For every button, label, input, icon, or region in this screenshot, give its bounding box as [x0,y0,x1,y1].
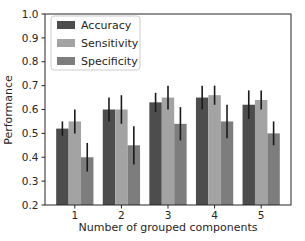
x-tick-label: 2 [118,209,125,221]
legend-swatch-sensitivity [57,39,75,47]
y-tick-label: 0.5 [22,127,39,139]
x-tick-label: 4 [211,209,218,221]
plot-area: 0.20.30.40.50.60.70.80.91.012345Accuracy… [22,8,291,221]
legend-label-accuracy: Accuracy [81,19,132,32]
x-tick-label: 1 [71,209,78,221]
bar-sensitivity-3 [162,98,174,205]
bar-chart-figure: 0.20.30.40.50.60.70.80.91.012345Accuracy… [0,0,305,241]
chart-canvas: 0.20.30.40.50.60.70.80.91.012345Accuracy… [0,0,305,241]
bar-sensitivity-1 [69,121,81,205]
bar-accuracy-5 [243,105,255,205]
y-tick-label: 0.4 [22,151,39,163]
y-axis-label: Performance [2,75,15,145]
bar-accuracy-4 [196,98,208,205]
bar-accuracy-1 [56,129,68,205]
legend-label-specificity: Specificity [81,55,138,68]
y-tick-label: 0.3 [22,175,39,187]
y-tick-label: 0.9 [22,32,39,44]
y-tick-label: 0.2 [22,199,39,211]
legend-swatch-specificity [57,57,75,65]
y-tick-label: 0.8 [22,55,39,67]
x-tick-label: 5 [258,209,265,221]
legend-label-sensitivity: Sensitivity [81,37,139,50]
x-tick-label: 3 [165,209,172,221]
bar-sensitivity-5 [255,100,267,205]
y-tick-label: 0.7 [22,79,39,91]
bar-accuracy-3 [149,102,161,205]
legend-swatch-accuracy [57,21,75,29]
bar-sensitivity-4 [208,95,220,205]
bar-accuracy-2 [103,110,115,206]
x-axis-label: Number of grouped components [79,221,258,234]
y-tick-label: 1.0 [22,8,39,20]
y-tick-label: 0.6 [22,103,39,115]
